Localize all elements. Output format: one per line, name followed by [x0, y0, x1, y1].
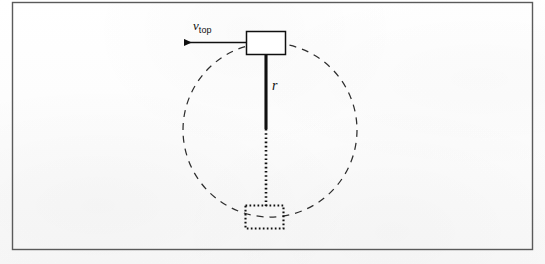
- physics-diagram: vtop r: [0, 0, 545, 264]
- velocity-subscript: top: [199, 25, 212, 35]
- block-at-top: [247, 32, 286, 55]
- radius-label: r: [272, 79, 277, 93]
- diagram-canvas: [0, 0, 545, 264]
- motion-path-circle: [183, 43, 357, 217]
- block-at-bottom-ghost: [246, 206, 284, 229]
- velocity-symbol: v: [193, 18, 199, 33]
- velocity-label: vtop: [193, 19, 212, 32]
